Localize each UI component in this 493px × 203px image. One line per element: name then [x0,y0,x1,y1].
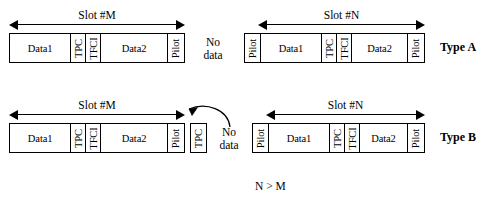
slot-cell-label: Data1 [28,133,53,144]
slot-cell-label: Pilot [411,38,422,57]
slot-label: Slot #M [9,9,185,21]
slot-cell-label: Data2 [367,43,392,54]
slot-cell-tfci: TFCI [86,124,101,152]
slot-cell-label: Data2 [371,133,396,144]
dimension-arrow-slot-m-b: Slot #M [9,110,185,120]
type-label-b: Type B [440,131,476,144]
slot-cell-pilot-trailing: Pilot [408,124,424,152]
slot-label: Slot #M [9,99,185,111]
slot-cell-data1: Data1 [10,124,71,152]
slot-cell-label: Data1 [287,133,312,144]
slot-cell-label: Data1 [279,43,304,54]
slot-cell-tpc: TPC [71,124,86,152]
dimension-arrow-slot-m-a: Slot #M [9,20,185,30]
dimension-line [273,114,418,115]
slot-cell-pilot: Pilot [168,124,184,152]
slot-cell-label: TPC [73,129,84,148]
slot-structure-diagram: Slot #M Data1 TPC TFCI Data2 Pilot No da… [0,0,493,203]
slot-cell-data1: Data1 [10,34,71,62]
slot-cell-data1: Data1 [261,34,322,62]
slot-cell-pilot: Pilot [168,34,184,62]
no-data-label-b: No data [209,126,249,151]
slot-cell-tfci: TFCI [86,34,101,62]
slot-cell-data2: Data2 [360,124,408,152]
slot-cell-label: Pilot [171,128,182,147]
slot-cell-label: TPC [332,129,343,148]
slot-cell-label: TPC [73,39,84,58]
dimension-arrow-slot-n-a: Slot #N [258,20,425,30]
type-label-a: Type A [440,41,476,54]
dimension-arrow-slot-n-b: Slot #N [266,110,425,120]
arrow-head-left-icon [9,20,18,30]
slot-frame: Pilot Data1 TPC TFCI Data2 Pilot [252,123,425,153]
slot-cell-label: TPC [324,39,335,58]
slot-cell-data2: Data2 [101,34,168,62]
slot-cell-tpc: TPC [71,34,86,62]
slot-frame: Pilot Data1 TPC TFCI Data2 Pilot [244,33,425,63]
slot-cell-label: Pilot [411,128,422,147]
no-data-label-a: No data [193,36,233,61]
arrow-head-right-icon [416,20,425,30]
dimension-line [265,24,418,25]
standalone-tpc-box: TPC [190,123,207,153]
slot-cell-label: Data2 [122,43,147,54]
slot-label: Slot #N [258,9,425,21]
slot-cell-label: TFCI [338,37,349,59]
slot-cell-tfci: TFCI [337,34,352,62]
slot-cell-label: Data1 [28,43,53,54]
slot-cell-label: Pilot [255,128,266,147]
slot-cell-label: TFCI [88,127,99,149]
slot-cell-pilot-leading: Pilot [253,124,269,152]
slot-frame: Data1 TPC TFCI Data2 Pilot [9,33,185,63]
slot-cell-label: Pilot [247,38,258,57]
slot-cell-tpc: TPC [322,34,337,62]
arrow-head-right-icon [416,110,425,120]
dimension-line [16,114,178,115]
arrow-head-left-icon [258,20,267,30]
slot-cell-pilot-leading: Pilot [245,34,261,62]
slot-cell-data2: Data2 [352,34,408,62]
slot-frame: Data1 TPC TFCI Data2 Pilot [9,123,185,153]
slot-cell-data1: Data1 [269,124,330,152]
arrow-head-right-icon [176,20,185,30]
slot-cell-label: TFCI [88,37,99,59]
dimension-line [16,24,178,25]
slot-label: Slot #N [266,99,425,111]
slot-cell-label: Data2 [122,133,147,144]
slot-cell-label: Pilot [171,38,182,57]
slot-cell-data2: Data2 [101,124,168,152]
relation-note: N > M [255,180,286,193]
slot-cell-pilot-trailing: Pilot [408,34,424,62]
slot-cell-label: TFCI [346,127,357,149]
standalone-tpc-label: TPC [193,128,204,147]
slot-cell-tpc: TPC [330,124,345,152]
arrow-head-left-icon [266,110,275,120]
slot-cell-tfci: TFCI [345,124,360,152]
arrow-head-left-icon [9,110,18,120]
